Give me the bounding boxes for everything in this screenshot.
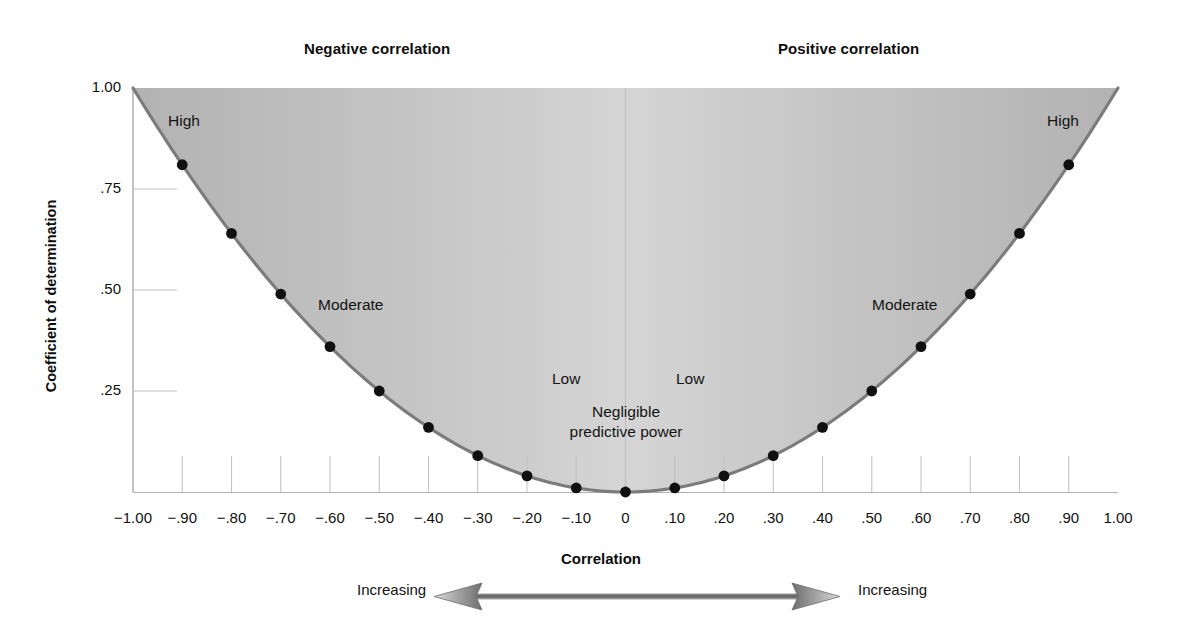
negligible-line-2: predictive power [570,423,683,440]
data-point [374,386,385,397]
data-point [965,289,976,300]
negligible-line-1: Negligible [592,403,660,420]
annotation-high-right: High [1047,112,1079,130]
data-point [620,487,631,498]
arrow-head-left [434,583,482,610]
data-point [423,422,434,433]
annotation-low-left: Low [552,370,580,388]
arrow-shaft [476,594,798,600]
data-point [669,483,680,494]
increasing-double-arrow [432,577,842,617]
data-point [275,289,286,300]
data-point [472,450,483,461]
increasing-label-left: Increasing [357,581,426,598]
x-tick-label: 1.00 [1088,509,1148,526]
arrow-head-right [792,583,840,610]
data-point [719,470,730,481]
annotation-negligible-predictive-power: Negligible predictive power [526,402,726,443]
annotation-high-left: High [168,112,200,130]
data-point [226,228,237,239]
y-tick-label: .50 [57,280,121,297]
data-point [768,450,779,461]
data-point [1014,228,1025,239]
annotation-moderate-right: Moderate [872,296,937,314]
data-point [522,470,533,481]
y-tick-label: .25 [57,381,121,398]
increasing-label-right: Increasing [858,581,927,598]
y-tick-label: 1.00 [57,78,121,95]
annotation-low-right: Low [676,370,704,388]
correlation-coefficient-of-determination-figure: Negative correlation Positive correlatio… [0,0,1202,639]
x-axis-title: Correlation [0,550,1202,567]
y-tick-marks [133,189,177,391]
data-point [325,341,336,352]
data-point [866,386,877,397]
y-tick-label: .75 [57,179,121,196]
data-point [571,483,582,494]
data-point [817,422,828,433]
plot-area [0,0,1202,560]
data-point [177,159,188,170]
data-point [1063,159,1074,170]
data-point [916,341,927,352]
annotation-moderate-left: Moderate [318,296,383,314]
